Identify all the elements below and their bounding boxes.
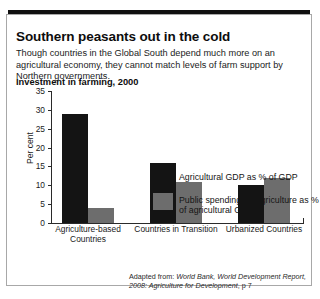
x-axis-category-label: Urbanized Countries <box>222 225 306 235</box>
bar-group <box>62 91 114 223</box>
legend-swatch-icon <box>153 193 173 210</box>
legend-swatch-icon <box>153 170 173 187</box>
bar <box>62 114 88 223</box>
chart-plot-area: Per cent 05101520253035 Agriculture-base… <box>16 91 304 241</box>
y-axis-tick-label: 25 <box>36 125 45 133</box>
bar <box>88 208 114 223</box>
x-axis-category-label: Agriculture-based Countries <box>46 225 130 244</box>
chart-title: Investment in farming, 2000 <box>16 77 138 87</box>
y-axis-tick-label: 35 <box>36 87 45 95</box>
legend-label: Public spending on agriculture as % of a… <box>179 193 320 215</box>
legend-item: Agricultural GDP as % of GDP <box>153 170 320 188</box>
y-axis-tick-label: 20 <box>36 143 45 151</box>
y-axis-tick-labels: 05101520253035 <box>28 91 48 223</box>
headline: Southern peasants out in the cold <box>16 29 306 44</box>
chart-legend: Agricultural GDP as % of GDP Public spen… <box>153 170 320 220</box>
y-axis-tick-label: 5 <box>40 200 45 208</box>
x-axis-category-labels: Agriculture-based CountriesCountries in … <box>52 225 304 249</box>
legend-item: Public spending on agriculture as % of a… <box>153 193 320 215</box>
legend-label: Agricultural GDP as % of GDP <box>179 170 320 182</box>
y-axis-tick-label: 30 <box>36 106 45 114</box>
figure-box: Southern peasants out in the cold Though… <box>6 14 312 286</box>
y-axis-tick-label: 15 <box>36 162 45 170</box>
source-note: Adapted from: World Bank, World Developm… <box>129 273 311 290</box>
x-axis-category-label: Countries in Transition <box>134 225 218 235</box>
y-axis-tick-label: 10 <box>36 181 45 189</box>
y-axis-tick-label: 0 <box>40 219 45 227</box>
source-page: , p 7 <box>238 281 252 290</box>
